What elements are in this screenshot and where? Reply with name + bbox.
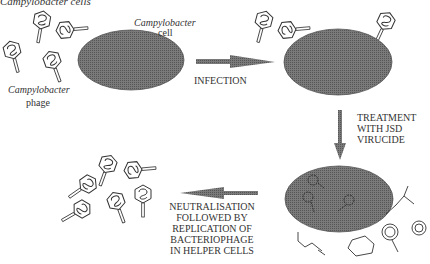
label-phage: Campylobacter — [8, 84, 70, 95]
phage-group-initial — [2, 10, 89, 85]
bacterial-cell-3 — [285, 166, 393, 232]
bacterial-cell-2 — [284, 29, 392, 95]
label-cell-line2: cell — [158, 27, 172, 38]
label-phage-line2: phage — [26, 97, 50, 108]
treatment-arrow — [334, 110, 346, 160]
label-treatment: TREATMENT WITH JSD VIRUCIDE — [357, 112, 416, 145]
label-infection: INFECTION — [194, 75, 247, 86]
label-campylobacter-cells: Campylobacter cells — [0, 0, 91, 7]
phage-group-released — [58, 153, 157, 228]
label-neutralisation: NEUTRALISATION FOLLOWED BY REPLICATION O… — [162, 201, 262, 256]
infection-arrow — [196, 55, 275, 68]
neutralisation-arrow — [180, 187, 258, 199]
bacterial-cell-1 — [78, 30, 184, 90]
